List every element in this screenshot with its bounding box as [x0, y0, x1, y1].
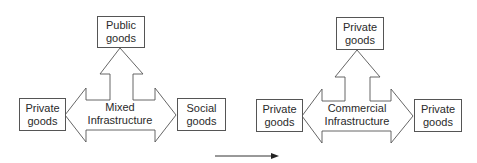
- center-label-line2: Infrastructure: [325, 115, 390, 127]
- private-goods-box-left: Privategoods: [19, 98, 66, 131]
- social-goods-box: Socialgoods: [177, 98, 226, 131]
- box-label-line2: goods: [423, 116, 453, 128]
- transition-arrow-icon: [215, 153, 279, 159]
- center-label-line1: Mixed: [105, 101, 134, 113]
- mixed-infrastructure-label: MixedInfrastructure: [80, 101, 160, 127]
- box-label-line1: Private: [262, 103, 296, 115]
- private-goods-box-left-commercial: Privategoods: [256, 99, 303, 132]
- box-label-line1: Private: [421, 103, 455, 115]
- box-label-line1: Social: [187, 102, 217, 114]
- center-label-line1: Commercial: [328, 102, 387, 114]
- commercial-infrastructure-label: CommercialInfrastructure: [312, 102, 402, 128]
- public-goods-box: Publicgoods: [97, 16, 145, 48]
- box-label-line2: goods: [187, 115, 217, 127]
- box-label-line2: goods: [28, 115, 58, 127]
- box-label-line2: goods: [345, 34, 375, 46]
- private-goods-box-right-commercial: Privategoods: [414, 99, 462, 132]
- box-label-line1: Private: [25, 102, 59, 114]
- commercial-infrastructure-arrow-shape: [302, 50, 413, 143]
- diagram-canvas: [0, 0, 477, 163]
- mixed-infrastructure-arrow-shape: [65, 48, 176, 142]
- center-label-line2: Infrastructure: [88, 114, 153, 126]
- box-label-line2: goods: [265, 116, 295, 128]
- box-label-line1: Public: [106, 19, 136, 31]
- box-label-line1: Private: [343, 21, 377, 33]
- box-label-line2: goods: [106, 32, 136, 44]
- private-goods-box-top: Privategoods: [336, 17, 384, 50]
